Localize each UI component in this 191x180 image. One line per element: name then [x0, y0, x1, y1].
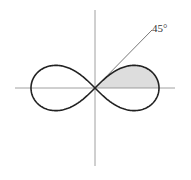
angle-label: 45°	[152, 22, 167, 34]
lemniscate-diagram: 45°	[0, 0, 191, 180]
shaded-region	[95, 65, 159, 88]
